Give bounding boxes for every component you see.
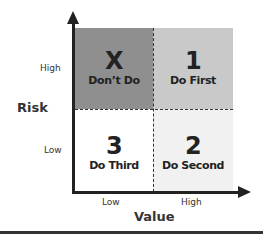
quadrant-number: 1 xyxy=(153,48,233,74)
x-axis-line xyxy=(72,191,242,194)
y-tick-high: High xyxy=(40,63,61,73)
quadrant-label: Do First xyxy=(153,74,233,87)
horizontal-divider xyxy=(75,109,233,110)
quadrant-label: Do Third xyxy=(75,159,153,172)
x-tick-low: Low xyxy=(102,197,120,207)
quadrant-number: 2 xyxy=(153,133,233,159)
vertical-divider xyxy=(153,28,154,192)
horizontal-rule xyxy=(0,231,263,234)
quadrant-do-first: 1 Do First xyxy=(153,28,233,109)
y-axis-line xyxy=(72,20,75,194)
quadrant-do-third: 3 Do Third xyxy=(75,109,153,192)
quadrant-label: Don’t Do xyxy=(75,74,153,87)
y-tick-low: Low xyxy=(44,145,62,155)
y-axis-title: Risk xyxy=(17,100,48,115)
quadrant-do-second: 2 Do Second xyxy=(153,109,233,192)
quadrant-dont-do: X Don’t Do xyxy=(75,28,153,109)
x-tick-high: High xyxy=(181,197,202,207)
x-axis-title: Value xyxy=(134,209,175,224)
quadrant-number: 3 xyxy=(75,133,153,159)
quadrant-label: Do Second xyxy=(153,159,233,172)
arrow-up-icon xyxy=(67,11,79,24)
quadrant-number: X xyxy=(75,48,153,74)
arrow-right-icon xyxy=(238,186,251,198)
